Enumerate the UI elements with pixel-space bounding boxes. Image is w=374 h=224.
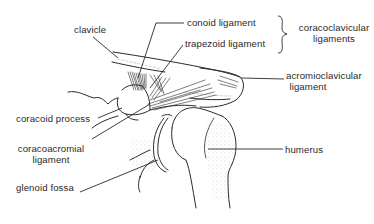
acromioclavicular-ligament-fibers — [218, 76, 238, 88]
label-coracoacromial-line2: ligament — [14, 154, 88, 165]
leader-clavicle — [93, 37, 118, 58]
label-coracoid-process: coracoid process — [16, 113, 90, 124]
leader-glenoid-fossa — [80, 160, 158, 192]
leader-coracoacromial — [92, 104, 150, 139]
label-coracoacromial-ligament: coracoacromial ligament — [14, 143, 88, 165]
leader-trapezoid — [150, 45, 183, 88]
label-coracoacromial-line1: coracoacromial — [14, 143, 88, 154]
label-acromioclavicular-ligament: acromioclavicular ligament — [242, 70, 330, 92]
leader-coracoid-process — [98, 108, 122, 118]
label-humerus: humerus — [285, 144, 323, 155]
clavicle-bone — [112, 52, 240, 77]
shoulder-diagram: clavicle conoid ligament trapezoid ligam… — [0, 0, 374, 224]
label-trapezoid-ligament: trapezoid ligament — [185, 38, 265, 49]
label-acromioclavicular-line2: ligament — [286, 81, 330, 92]
leader-conoid — [138, 23, 184, 78]
label-glenoid-fossa: glenoid fossa — [16, 182, 74, 193]
group-brace — [278, 16, 287, 53]
label-clavicle: clavicle — [74, 24, 106, 35]
glenoid-fossa-rim — [153, 115, 172, 173]
label-coracoclavicular-line2: ligaments — [291, 33, 374, 44]
label-coracoclavicular-line1: coracoclavicular — [291, 22, 374, 33]
label-conoid-ligament: conoid ligament — [187, 17, 256, 28]
label-acromioclavicular-line1: acromioclavicular — [286, 70, 330, 81]
label-coracoclavicular-ligaments: coracoclavicular ligaments — [291, 22, 374, 44]
